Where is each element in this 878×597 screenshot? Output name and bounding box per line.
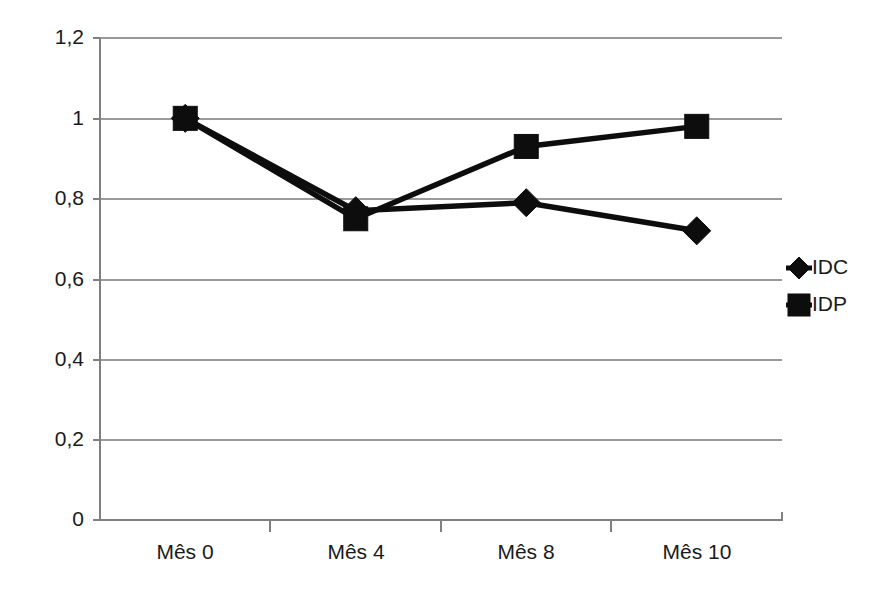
data-point-square (685, 114, 709, 138)
legend-label-idc: IDC (812, 255, 848, 278)
y-axis-labels: 1,2 1 0,8 0,6 0,4 0,2 0 (55, 25, 85, 530)
diamond-icon (788, 257, 810, 279)
series-idp (173, 106, 709, 230)
data-point-diamond (683, 217, 711, 245)
chart-canvas: 1,2 1 0,8 0,6 0,4 0,2 0 Mês 0 Mês 4 Mês … (0, 0, 878, 597)
legend-label-idp: IDP (812, 292, 847, 315)
legend: IDC IDP (786, 255, 848, 316)
x-axis-label-mes-8: Mês 8 (497, 540, 554, 563)
x-axis-label-mes-10: Mês 10 (663, 540, 732, 563)
square-icon (788, 294, 810, 316)
y-axis-label-1: 1 (72, 106, 84, 129)
data-point-diamond (512, 189, 540, 217)
x-tick-marks (270, 520, 611, 532)
y-axis-label-0-4: 0,4 (55, 347, 85, 370)
data-point-square (173, 106, 197, 130)
y-axis-label-0: 0 (72, 507, 84, 530)
legend-item-idp[interactable]: IDP (786, 292, 847, 316)
y-tick-marks (93, 38, 100, 520)
x-axis-label-mes-4: Mês 4 (327, 540, 385, 563)
series-layer (171, 104, 711, 244)
series-idc (171, 104, 711, 244)
y-axis-label-1-2: 1,2 (55, 25, 84, 48)
line-chart: 1,2 1 0,8 0,6 0,4 0,2 0 Mês 0 Mês 4 Mês … (0, 0, 878, 597)
y-axis-label-0-8: 0,8 (55, 186, 84, 209)
legend-item-idc[interactable]: IDC (786, 255, 848, 279)
y-axis-label-0-6: 0,6 (55, 267, 84, 290)
y-axis-label-0-2: 0,2 (55, 427, 84, 450)
data-point-square (514, 134, 538, 158)
x-axis-labels: Mês 0 Mês 4 Mês 8 Mês 10 (156, 540, 731, 563)
x-axis-label-mes-0: Mês 0 (156, 540, 213, 563)
gridlines (100, 38, 782, 440)
data-point-square (344, 207, 368, 231)
series-line-idp (185, 118, 697, 218)
